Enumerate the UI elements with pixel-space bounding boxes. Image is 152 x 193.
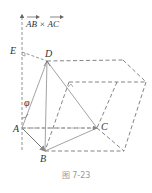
angle-label-phi: φ bbox=[24, 98, 30, 108]
parallelepiped-diagram: AB × AC E D φ A B C 图 7-23 bbox=[0, 0, 152, 193]
segment-ED bbox=[22, 52, 47, 61]
vector-AB bbox=[22, 128, 45, 151]
figure-caption: 图 7-23 bbox=[0, 169, 152, 180]
point-label-C: C bbox=[101, 122, 108, 132]
point-label-D: D bbox=[45, 49, 52, 59]
parallelepiped-dashed-edges bbox=[22, 60, 146, 151]
point-label-A: A bbox=[13, 124, 19, 134]
point-label-B: B bbox=[40, 154, 46, 164]
tetrahedron-solid-edges bbox=[22, 61, 97, 151]
vector-cross-product-label: AB × AC bbox=[26, 19, 59, 29]
right-angle-mark-E bbox=[22, 53, 25, 56]
point-label-E: E bbox=[10, 46, 16, 56]
right-angle-mark-dc bbox=[68, 84, 73, 87]
diagram-svg bbox=[0, 0, 152, 193]
